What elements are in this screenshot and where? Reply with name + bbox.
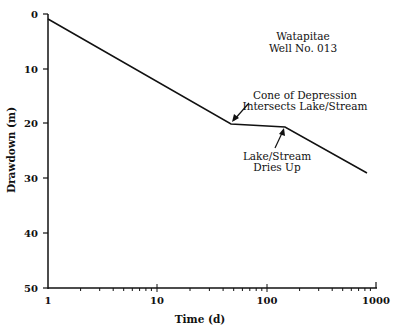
x-tick-label: 100 [257,295,278,306]
y-tick-label: 20 [24,118,38,129]
arrowhead-icon [279,128,285,136]
y-tick-label: 50 [24,283,38,294]
chart-title-line-2: Well No. 013 [269,42,337,54]
y-ticks: 0 10 20 30 40 50 [24,9,48,294]
y-tick-label: 10 [24,64,38,75]
y-tick-label: 40 [24,228,38,239]
y-tick-label: 30 [24,173,38,184]
x-tick-label: 1000 [362,295,390,306]
drawdown-chart: 0 10 20 30 40 50 1 10 100 1000 Time (d) … [0,0,396,331]
x-tick-label: 10 [150,295,164,306]
annotation-dries-line-2: Dries Up [253,161,301,173]
chart-title-line-1: Watapitae [276,30,329,42]
y-axis-title: Drawdown (m) [5,107,17,193]
y-tick-label: 0 [31,9,38,20]
x-axis-title: Time (d) [175,313,226,325]
annotation-cone-line-2: Intersects Lake/Stream [242,100,367,112]
x-tick-label: 1 [45,295,52,306]
